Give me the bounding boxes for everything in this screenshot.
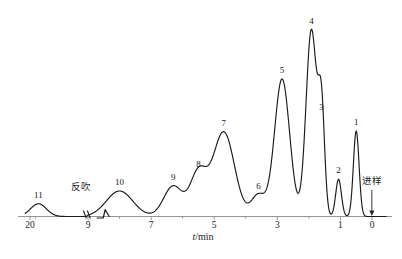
peak-label-10: 10	[115, 178, 124, 187]
peak-label-9: 9	[171, 173, 176, 182]
peak-label-11: 11	[34, 191, 43, 200]
peak-label-7: 7	[221, 119, 226, 128]
peak-label-4: 4	[309, 17, 314, 26]
x-tick-label-1: 1	[338, 221, 343, 231]
x-axis-title: t/min	[192, 232, 213, 242]
x-tick-label-20: 20	[25, 221, 35, 231]
annotation-backflush: 反吹	[71, 182, 91, 192]
peak-label-8: 8	[196, 160, 201, 169]
injection-arrow-head	[369, 211, 374, 217]
x-tick-label-0: 0	[370, 221, 375, 231]
peak-label-3: 3	[319, 103, 324, 112]
chromatogram-figure: 1110987654321 20975310 反吹进样 t/min	[0, 0, 402, 259]
peak-label-5: 5	[280, 66, 285, 75]
x-tick-label-7: 7	[149, 221, 154, 231]
x-axis-title-unit: /min	[195, 231, 213, 242]
x-tick-label-9: 9	[86, 221, 91, 231]
peak-label-2: 2	[336, 166, 341, 175]
axis-break-slash	[83, 211, 86, 219]
peak-label-6: 6	[256, 182, 261, 191]
x-tick-label-3: 3	[275, 221, 280, 231]
x-tick-label-5: 5	[212, 221, 217, 231]
peak-label-1: 1	[354, 118, 359, 127]
injection-arrow-icon	[369, 190, 374, 216]
annotation-injection: 进样	[362, 176, 382, 186]
axis-break-mark	[83, 211, 90, 219]
